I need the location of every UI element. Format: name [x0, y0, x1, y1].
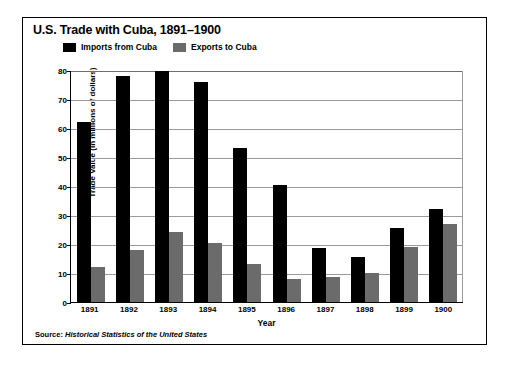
- source-prefix: Source:: [35, 330, 65, 339]
- bar-group: [155, 71, 183, 302]
- bar-imports[interactable]: [233, 148, 247, 302]
- x-axis-tick-label: 1891: [70, 305, 109, 314]
- x-axis-tick-label: 1893: [149, 305, 188, 314]
- x-axis-tick-label: 1895: [227, 305, 266, 314]
- bar-exports[interactable]: [130, 250, 144, 302]
- x-axis-tick-label: 1894: [188, 305, 227, 314]
- legend-label-imports: Imports from Cuba: [81, 42, 157, 52]
- legend-swatch-imports: [63, 43, 76, 52]
- bar-group: [312, 71, 340, 302]
- bar-exports[interactable]: [287, 279, 301, 302]
- bar-imports[interactable]: [116, 76, 130, 302]
- plot-area: 01020304050607080: [70, 71, 463, 303]
- source-note: Source: Historical Statistics of the Uni…: [35, 330, 207, 339]
- chart-frame: U.S. Trade with Cuba, 1891–1900 Imports …: [22, 17, 487, 345]
- chart-page: U.S. Trade with Cuba, 1891–1900 Imports …: [0, 0, 509, 367]
- y-axis-tick-label: 70: [58, 96, 67, 105]
- bar-group: [77, 71, 105, 302]
- y-axis-tick-label: 10: [58, 270, 67, 279]
- bar-exports[interactable]: [169, 232, 183, 302]
- bar-group: [233, 71, 261, 302]
- legend-item-imports: Imports from Cuba: [63, 42, 157, 52]
- bar-group: [351, 71, 379, 302]
- bar-group: [390, 71, 418, 302]
- bar-imports[interactable]: [429, 209, 443, 302]
- bar-exports[interactable]: [247, 264, 261, 302]
- chart-legend: Imports from Cuba Exports to Cuba: [63, 42, 257, 52]
- bar-group: [116, 71, 144, 302]
- bar-exports[interactable]: [326, 277, 340, 302]
- y-axis-tick-label: 50: [58, 154, 67, 163]
- bar-exports[interactable]: [91, 267, 105, 302]
- y-axis-tick-label: 40: [58, 183, 67, 192]
- bar-exports[interactable]: [365, 273, 379, 302]
- legend-item-exports: Exports to Cuba: [173, 42, 257, 52]
- bar-group: [194, 71, 222, 302]
- bar-group: [429, 71, 457, 302]
- bar-imports[interactable]: [390, 228, 404, 302]
- bar-imports[interactable]: [273, 185, 287, 302]
- x-axis-tick-label: 1897: [306, 305, 345, 314]
- bar-imports[interactable]: [312, 248, 326, 302]
- y-axis-tick-label: 20: [58, 241, 67, 250]
- legend-label-exports: Exports to Cuba: [191, 42, 257, 52]
- y-axis-tick-mark: [67, 303, 71, 304]
- x-axis-title: Year: [70, 318, 463, 328]
- bar-imports[interactable]: [351, 257, 365, 302]
- x-axis-tick-label: 1899: [384, 305, 423, 314]
- y-axis-tick-label: 60: [58, 125, 67, 134]
- bar-imports[interactable]: [155, 71, 169, 302]
- bar-exports[interactable]: [208, 243, 222, 302]
- x-axis-tick-labels: 1891189218931894189518961897189818991900: [70, 305, 463, 314]
- x-axis-tick-label: 1896: [266, 305, 305, 314]
- bar-series-container: [71, 71, 463, 302]
- legend-swatch-exports: [173, 43, 186, 52]
- source-text: Historical Statistics of the United Stat…: [65, 330, 207, 339]
- page-title: U.S. Trade with Cuba, 1891–1900: [33, 23, 221, 37]
- bar-exports[interactable]: [404, 247, 418, 302]
- y-axis-tick-label: 80: [58, 67, 67, 76]
- bar-imports[interactable]: [77, 122, 91, 302]
- x-axis-tick-label: 1900: [424, 305, 463, 314]
- y-axis-tick-label: 30: [58, 212, 67, 221]
- x-axis-tick-label: 1892: [109, 305, 148, 314]
- x-axis-tick-label: 1898: [345, 305, 384, 314]
- bar-group: [273, 71, 301, 302]
- bar-imports[interactable]: [194, 82, 208, 302]
- bar-exports[interactable]: [443, 224, 457, 302]
